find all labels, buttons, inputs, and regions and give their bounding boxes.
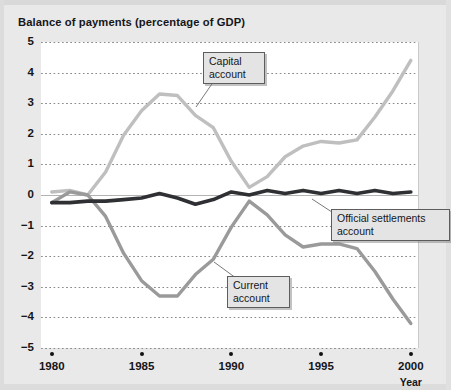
x-axis-tick-marker: [140, 352, 144, 356]
y-axis-tick-label: −3: [8, 281, 34, 292]
annotation-capital-account: Capital account: [203, 52, 265, 84]
y-axis-tick-label: 4: [8, 67, 34, 78]
page-edge-right: [446, 0, 451, 390]
x-axis-tick-marker: [319, 352, 323, 356]
annotation-official-settlements-account: Official settlements account: [331, 209, 450, 241]
x-axis-title: Year: [388, 376, 434, 388]
x-axis-tick-marker: [229, 352, 233, 356]
y-axis-tick-label: 5: [8, 36, 34, 47]
x-axis-tick-marker: [50, 352, 54, 356]
y-axis-tick-label: 1: [8, 158, 34, 169]
gridline: [41, 348, 418, 349]
x-axis-tick-label: 1985: [119, 360, 165, 372]
y-axis-tick-label: 2: [8, 128, 34, 139]
y-axis-tick-label: 3: [8, 97, 34, 108]
y-axis-tick-label: 0: [8, 189, 34, 200]
x-axis-tick-marker: [409, 352, 413, 356]
annotation-current-account: Current account: [227, 276, 290, 308]
chart-screenshot: Balance of payments (percentage of GDP) …: [0, 0, 451, 390]
y-axis-tick-label: −1: [8, 220, 34, 231]
x-axis-tick-label: 1995: [298, 360, 344, 372]
page-edge-left: [0, 0, 4, 390]
page-edge-top: [0, 0, 451, 5]
x-axis-tick-label: 1980: [29, 360, 75, 372]
y-axis-tick-label: −2: [8, 250, 34, 261]
page-edge-bottom: [0, 384, 451, 390]
chart-title: Balance of payments (percentage of GDP): [18, 16, 245, 28]
plot-border-right: [418, 42, 419, 348]
x-axis-tick-label: 2000: [388, 360, 434, 372]
series-line-official-settlements-account: [52, 190, 411, 204]
y-axis-tick-label: −5: [8, 342, 34, 353]
y-axis-tick-label: −4: [8, 311, 34, 322]
x-axis-tick-label: 1990: [208, 360, 254, 372]
